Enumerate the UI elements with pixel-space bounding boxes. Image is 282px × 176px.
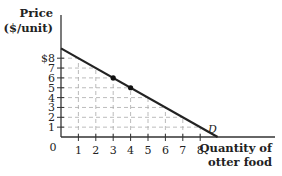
- origin-label: 0: [50, 141, 57, 154]
- demand-chart: 123456781234567$8 Price ($/unit) Quantit…: [0, 0, 282, 176]
- x-tick-label: 5: [145, 144, 152, 157]
- tick-labels: 123456781234567$8: [41, 52, 204, 157]
- y-axis-label-line2: ($/unit): [4, 21, 54, 35]
- x-tick-label: 3: [110, 144, 117, 157]
- curve-label-d: D: [207, 123, 217, 136]
- data-point: [128, 85, 133, 90]
- grid-lines: [61, 58, 200, 137]
- x-tick-label: 7: [179, 144, 186, 157]
- x-tick-label: 4: [127, 144, 134, 157]
- x-axis-label-line2: otter food: [208, 155, 272, 169]
- demand-curve: [61, 48, 218, 137]
- x-axis-label-line1: Quantity of: [200, 141, 274, 155]
- y-tick-label: $8: [41, 52, 55, 65]
- y-axis-label-line1: Price: [20, 6, 53, 20]
- x-tick-label: 6: [162, 144, 169, 157]
- data-point: [111, 75, 116, 80]
- x-tick-label: 1: [75, 144, 82, 157]
- demand-line: [61, 48, 218, 137]
- x-tick-label: 2: [92, 144, 99, 157]
